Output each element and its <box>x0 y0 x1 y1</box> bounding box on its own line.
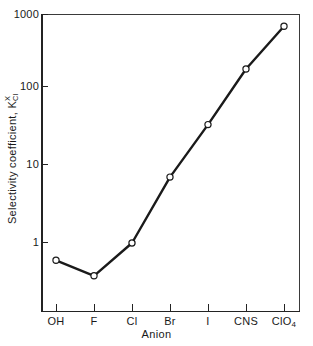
y-axis-title-superscript: X <box>3 96 12 101</box>
data-point-marker <box>129 240 135 246</box>
x-tick-mark-br <box>170 304 171 311</box>
x-tick-label-i: I <box>206 315 209 327</box>
series-line <box>56 26 284 275</box>
x-tick-label-cns: CNS <box>234 315 258 327</box>
y-axis-title-text: Selectivity coefficient, <box>6 109 18 225</box>
y-tick-mark-10 <box>41 164 48 165</box>
data-point-marker <box>281 23 287 29</box>
x-tick-mark-i <box>208 304 209 311</box>
data-point-marker <box>91 273 97 279</box>
axis-spine-left <box>41 14 43 312</box>
x-tick-label-f: F <box>90 315 97 327</box>
axis-spine-top <box>41 14 300 15</box>
y-tick-mark-100 <box>41 86 48 87</box>
data-series-layer <box>0 0 313 346</box>
x-tick-label-cl: Cl <box>127 315 138 327</box>
data-point-marker <box>167 174 173 180</box>
x-tick-label-clo4-text: ClO <box>272 315 292 327</box>
x-tick-mark-clo4 <box>284 304 285 311</box>
x-tick-label-br: Br <box>164 315 176 327</box>
data-point-marker <box>53 257 59 263</box>
y-tick-mark-1 <box>41 242 48 243</box>
axis-spine-right <box>299 14 300 312</box>
x-tick-mark-oh <box>56 304 57 311</box>
data-point-marker <box>243 66 249 72</box>
x-tick-mark-f <box>94 304 95 311</box>
x-tick-mark-cl <box>132 304 133 311</box>
y-tick-mark-1000 <box>41 14 48 15</box>
x-tick-label-oh: OH <box>47 315 64 327</box>
y-axis-title-symbol: KClX <box>6 101 18 109</box>
data-point-marker <box>205 122 211 128</box>
x-tick-mark-cns <box>246 304 247 311</box>
y-axis-title-symbol-letter: K <box>6 101 18 109</box>
chart-figure: 1000 100 10 1 OH F Cl Br I CNS ClO4 Anio… <box>0 0 313 346</box>
x-axis-title: Anion <box>0 328 313 340</box>
y-axis-title: Selectivity coefficient, KClX <box>6 14 22 311</box>
